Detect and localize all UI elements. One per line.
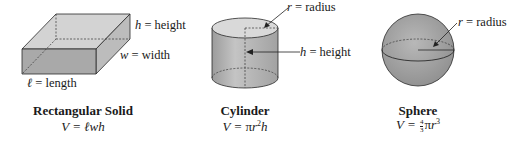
formula-cylinder: V = πr2h <box>205 119 285 135</box>
label-text: = width <box>128 48 170 62</box>
label-height: h = height <box>300 46 351 59</box>
formula-sphere: V = 43πr3 <box>378 117 458 134</box>
label-radius: r = radius <box>458 16 507 29</box>
label-text: = height <box>306 45 351 59</box>
pi-symbol: π <box>424 117 431 132</box>
title-rectangular-solid: Rectangular Solid <box>18 103 148 119</box>
rectangular-solid-shape <box>22 14 130 74</box>
formula-prefix: V = <box>396 117 419 132</box>
title-cylinder: Cylinder <box>205 103 285 119</box>
label-width: w = width <box>120 49 170 62</box>
formula-expr: ℓwh <box>84 119 105 134</box>
label-text: = radius <box>292 0 336 14</box>
pi-symbol: π <box>245 119 252 134</box>
formula-exp: 3 <box>436 117 440 126</box>
fraction: 43 <box>420 119 424 134</box>
formula-suffix: h <box>261 119 268 134</box>
formula-prefix: V = <box>61 119 84 134</box>
label-length: ℓ = length <box>27 77 77 90</box>
sphere-shape <box>382 14 457 86</box>
label-text: = height <box>141 18 186 32</box>
formula-rectangular-solid: V = ℓwh <box>18 119 148 135</box>
label-text: = length <box>32 76 77 90</box>
formula-prefix: V = <box>222 119 245 134</box>
label-radius: r = radius <box>287 1 336 14</box>
label-height: h = height <box>135 19 186 32</box>
fraction-denominator: 3 <box>420 127 424 134</box>
cylinder-shape <box>212 8 300 88</box>
label-text: = radius <box>463 15 507 29</box>
